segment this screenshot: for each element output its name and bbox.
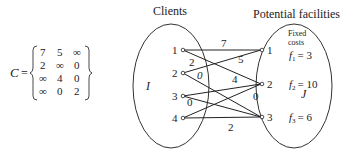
fixed-costs-label-line1: Fixed [288,29,306,38]
edge-cost-label: 2 [228,121,234,133]
facility-location-diagram: C = 7 5 ∞ 2 ∞ 0 ∞ 4 0 ∞ 0 2 Clients Pote… [0,0,348,157]
client-node-2 [181,71,185,75]
edge-2-1 [183,50,261,73]
edge-cost-label: 0 [253,90,259,102]
facility-label: 3 [267,111,273,123]
fixed-costs-label-line2: costs [288,38,304,47]
matrix-cell: ∞ [73,46,81,58]
matrix-name: C [10,65,19,80]
edge-4-2 [183,84,261,118]
client-label: 3 [172,90,178,102]
matrix-cell: ∞ [39,72,47,84]
cost-matrix: C = 7 5 ∞ 2 ∞ 0 ∞ 4 0 ∞ 0 2 [10,46,92,100]
edge-1-2 [183,50,261,84]
clients-title: Clients [153,4,187,18]
matrix-cell: 2 [74,85,80,97]
matrix-cell: 4 [57,72,63,84]
matrix-cell: 7 [40,46,46,58]
fixed-cost-1: f1= 3 [289,49,313,63]
matrix-cell: 2 [40,59,46,71]
client-node-1 [181,48,185,52]
clients-set-label: I [145,79,151,93]
clients-set-ellipse [133,24,209,148]
edge-cost-label: 5 [238,53,244,65]
fixed-costs: f1= 3 f2= 10 f3= 6 [289,49,318,125]
edges [183,50,261,118]
fixed-cost-2: f2= 10 [289,78,318,92]
right-brace [85,46,92,100]
edge-cost-label: 0 [197,69,203,81]
fixed-cost-3: f3= 6 [289,111,313,125]
edge-cost-label: 2 [189,56,195,68]
facility-node-1 [260,48,264,52]
left-brace [30,46,37,100]
matrix-cell: ∞ [39,85,47,97]
facility-label: 1 [267,44,273,56]
facilities-title: Potential facilities [253,7,340,21]
client-label: 1 [172,44,178,56]
client-label: 4 [172,112,178,124]
matrix-cell: 0 [57,85,63,97]
edge-cost-label: 0 [187,96,193,108]
facility-nodes: 1 2 3 [260,44,273,123]
matrix-cell: 0 [74,59,80,71]
facility-label: 2 [267,78,273,90]
edge-cost-label: 7 [221,37,227,49]
edge-3-3 [183,96,261,117]
edge-cost-label: 4 [232,73,238,85]
edge-2-3 [183,73,261,117]
matrix-cell: 5 [57,46,63,58]
matrix-equals: = [21,66,28,80]
facility-node-2 [260,82,264,86]
matrix-cell: ∞ [56,59,64,71]
client-node-3 [181,94,185,98]
edge-4-3 [183,117,261,118]
client-label: 2 [172,67,178,79]
client-nodes: 1 2 3 4 [172,44,185,124]
matrix-cell: 0 [74,72,80,84]
edge-3-2 [183,84,261,96]
facility-node-3 [260,115,264,119]
client-node-4 [181,116,185,120]
